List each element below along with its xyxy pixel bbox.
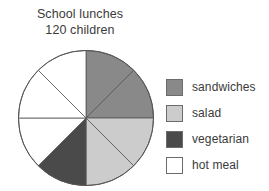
pie-chart-svg (17, 48, 155, 188)
legend-swatch-vegetarian (166, 131, 183, 148)
legend-label-hot-meal: hot meal (192, 158, 239, 172)
chart-title-line-1: School lunches (0, 6, 160, 22)
chart-legend: sandwiches salad vegetarian hot meal (166, 74, 269, 178)
pie-chart (17, 48, 155, 188)
legend-item-sandwiches: sandwiches (166, 74, 269, 100)
legend-label-vegetarian: vegetarian (192, 132, 249, 146)
legend-swatch-hot-meal (166, 157, 183, 174)
legend-label-sandwiches: sandwiches (192, 80, 256, 94)
legend-item-vegetarian: vegetarian (166, 126, 269, 152)
chart-title-line-2: 120 children (0, 22, 160, 38)
legend-item-hot-meal: hot meal (166, 152, 269, 178)
legend-label-salad: salad (192, 106, 221, 120)
legend-swatch-sandwiches (166, 79, 183, 96)
pie-chart-figure: School lunches 120 children (0, 0, 269, 191)
chart-title: School lunches 120 children (0, 6, 160, 38)
legend-item-salad: salad (166, 100, 269, 126)
legend-swatch-salad (166, 105, 183, 122)
